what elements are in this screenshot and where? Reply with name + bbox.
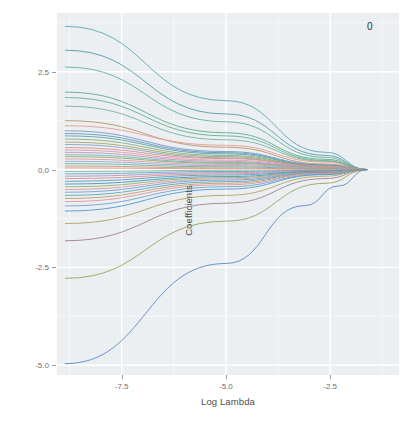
x-tick-mark (122, 375, 123, 379)
nonzero-count-label: 0 (367, 21, 373, 32)
coefficient-path (65, 170, 367, 364)
x-tick-label: -2.5 (310, 382, 350, 391)
y-tick-mark (52, 365, 56, 366)
x-tick-label: -5.0 (206, 382, 246, 391)
x-tick-label: -7.5 (102, 382, 142, 391)
y-axis-title-text: Coefficients (181, 0, 197, 421)
plot-panel (57, 13, 399, 375)
plot-svg (57, 13, 399, 375)
y-tick-mark (52, 267, 56, 268)
coefficient-path-figure: 0 2.50.0-2.5-5.0 -7.5-5.0-2.5 Coefficien… (0, 0, 415, 421)
y-tick-mark (52, 72, 56, 73)
y-axis-title: Coefficients (0, 0, 16, 421)
coefficient-path-lines (65, 26, 367, 363)
x-tick-mark (226, 375, 227, 379)
x-tick-mark (330, 375, 331, 379)
x-axis-title: Log Lambda (57, 396, 399, 407)
coefficient-path (65, 170, 367, 279)
y-tick-mark (52, 170, 56, 171)
